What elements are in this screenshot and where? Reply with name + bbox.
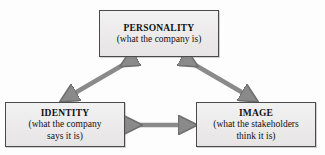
connector-personality-image (190, 62, 250, 97)
node-identity: IDENTITY (what the company says it is) (5, 102, 125, 147)
node-image: IMAGE (what the stakeholders think it is… (196, 102, 316, 147)
node-identity-title: IDENTITY (41, 107, 90, 119)
node-image-subtitle: (what the stakeholders think it is) (210, 119, 301, 142)
diagram-canvas: PERSONALITY (what the company is) IDENTI… (0, 0, 325, 155)
node-personality: PERSONALITY (what the company is) (99, 10, 219, 57)
node-identity-subtitle: (what the company says it is) (26, 119, 105, 142)
connector-personality-identity (68, 62, 128, 97)
node-personality-subtitle: (what the company is) (114, 34, 205, 46)
node-personality-title: PERSONALITY (124, 22, 195, 34)
node-image-title: IMAGE (239, 107, 273, 119)
